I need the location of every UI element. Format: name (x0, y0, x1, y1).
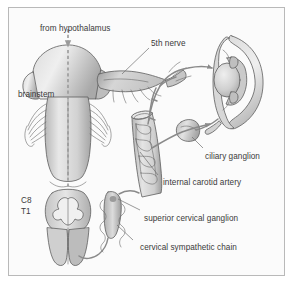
figure-frame: from hypothalamus 5th nerve brainstem C8… (0, 0, 293, 284)
spinal-cord-structure (45, 189, 91, 265)
medulla-lobe-left (50, 182, 68, 187)
label-fifth-nerve: 5th nerve (151, 39, 186, 48)
leader-fifth-nerve (122, 48, 149, 74)
label-superior-cervical-ganglion: superior cervical ganglion (144, 214, 239, 223)
scg-hilum (110, 196, 117, 202)
trigeminal-nerve-structure (97, 62, 191, 103)
leader-sympathetic-chain (117, 225, 133, 240)
label-brainstem: brainstem (18, 90, 55, 99)
cord-descending-right (68, 228, 89, 266)
medulla-lobe-right (68, 182, 86, 187)
cranial-nerve-rootlets-left (25, 104, 46, 146)
label-from-hypothalamus: from hypothalamus (40, 24, 110, 33)
leader-ciliary-ganglion (192, 137, 203, 148)
ciliary-body-superior (230, 57, 239, 68)
ciliary-body-inferior (230, 92, 239, 103)
label-cord-level-c8: C8 (21, 196, 32, 205)
cranial-nerve-rootlets-right (90, 104, 111, 146)
label-cervical-sympathetic-chain: cervical sympathetic chain (140, 243, 237, 252)
cord-descending-left (47, 228, 68, 266)
label-cord-level-t1: T1 (21, 207, 31, 216)
label-internal-carotid-artery: internal carotid artery (163, 178, 242, 187)
anatomy-diagram: from hypothalamus 5th nerve brainstem C8… (0, 0, 293, 284)
iris-superior (223, 50, 229, 58)
eye-lens (214, 63, 240, 97)
brainstem-structure (23, 45, 111, 187)
scg-to-carotid-fiber (119, 191, 139, 194)
eye-structure (205, 35, 263, 134)
label-ciliary-ganglion: ciliary ganglion (205, 152, 260, 161)
internal-carotid-artery-structure (131, 109, 162, 197)
